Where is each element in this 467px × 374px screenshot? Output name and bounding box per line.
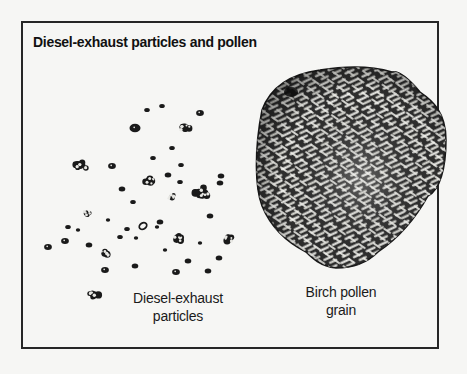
diesel-particle [76,228,80,231]
illustration [0,0,467,374]
diesel-particle [134,236,138,239]
diesel-particle [106,218,110,221]
diesel-particle [223,234,234,244]
diesel-particle [86,243,93,248]
diesel-particle [44,244,52,250]
diesel-particle [179,124,192,132]
pollen-pore [284,87,298,97]
diesel-particle [192,185,211,199]
diesel-particle [108,163,116,169]
pollen-label-line2: grain [292,301,390,319]
diesel-particle [177,180,183,184]
diesel-particle [172,269,180,275]
diesel-particle [165,173,172,178]
diesel-particles-label: Diesel-exhaust particles [128,289,228,325]
diesel-particle [163,248,167,251]
diesel-particle [101,249,111,258]
diesel-particle [138,221,148,231]
diesel-particle [65,225,71,229]
diesel-particle [144,108,150,112]
diesel-particle [178,163,184,167]
diesel-particle [169,146,175,150]
diesel-particle [87,290,102,299]
diesel-particle [168,193,176,200]
diesel-particle [117,235,123,239]
diesel-particle [173,233,184,244]
diesel-particle [217,181,224,186]
diesel-label-line1: Diesel-exhaust [128,289,228,307]
diesel-particle [61,238,69,244]
diesel-particle [83,210,92,217]
diesel-particle [218,174,225,179]
pollen-label-line1: Birch pollen [292,283,390,301]
diesel-label-line2: particles [128,307,228,325]
birch-pollen-label: Birch pollen grain [292,283,390,319]
diesel-particle [196,110,204,116]
diesel-particle [130,124,141,133]
diesel-particle [198,241,202,244]
diesel-particle [130,200,136,204]
diesel-particle [207,214,214,219]
diesel-particle [124,227,130,231]
diesel-particle [159,104,165,108]
birch-pollen-grain [256,67,446,268]
diesel-particle [142,176,155,186]
diesel-particle [155,225,159,228]
diesel-particle [150,156,156,160]
diesel-particle [101,267,109,273]
diesel-particle [185,259,192,264]
diesel-particle [72,160,88,171]
diesel-particle [119,187,126,192]
diesel-particle [132,264,139,269]
diesel-particle [157,220,164,225]
diesel-exhaust-particles [44,104,234,300]
diesel-particle [216,256,223,261]
diesel-particle [205,269,212,274]
